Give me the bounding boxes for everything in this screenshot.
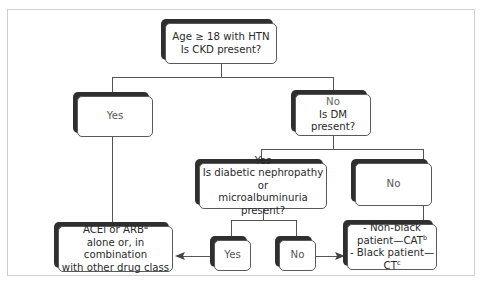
- node-acei-arb-treatment: ACEi or ARBa alone or, in combination wi…: [58, 226, 173, 272]
- node-dm-yes-nephropathy-question: Yes Is diabetic nephropathy or microalbu…: [199, 163, 327, 209]
- node-text: Is DM present?: [296, 109, 370, 134]
- node-text: alone or, in combination: [59, 237, 172, 262]
- arrow-right-icon: [335, 252, 345, 260]
- node-text: Yes: [107, 110, 123, 123]
- node-nephropathy-no: No: [279, 240, 316, 271]
- node-text: - Non-black: [363, 222, 421, 235]
- node-root-question: Age ≥ 18 with HTN Is CKD present?: [165, 23, 277, 64]
- node-race-based-treatment: - Non-black patient—CATb - Black patient…: [347, 224, 437, 270]
- node-text: Is diabetic nephropathy or: [200, 167, 326, 192]
- node-text: No: [387, 178, 401, 191]
- arrow-left-icon: [175, 252, 185, 260]
- node-text: Yes: [224, 249, 240, 262]
- node-text: - Black patient—CTc: [348, 247, 436, 272]
- node-text: No: [291, 249, 305, 262]
- node-ckd-no-dm-question: No Is DM present?: [295, 94, 371, 136]
- node-text: patient—CATb: [357, 235, 427, 248]
- node-text: Is CKD present?: [181, 44, 262, 57]
- node-text: No: [326, 96, 340, 109]
- node-text: ACEi or ARBa: [83, 224, 148, 237]
- node-text: with other drug class: [62, 262, 169, 275]
- node-ckd-yes: Yes: [77, 96, 153, 137]
- node-text: Age ≥ 18 with HTN: [172, 31, 269, 44]
- node-nephropathy-yes: Yes: [214, 240, 251, 271]
- node-text: microalbuminuria present?: [200, 192, 326, 217]
- node-dm-no: No: [355, 163, 432, 206]
- node-text: Yes: [255, 155, 271, 168]
